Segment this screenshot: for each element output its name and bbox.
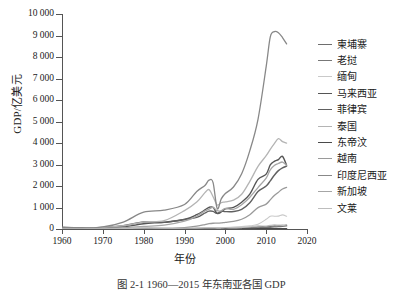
legend-label: 越南 [337, 153, 357, 164]
legend-item[interactable]: 越南 [318, 151, 403, 167]
legend-item[interactable]: 缅甸 [318, 69, 403, 85]
x-tick-label: 1990 [165, 236, 205, 246]
series-lines [62, 14, 307, 229]
y-tick-label: 3 000 [10, 160, 54, 169]
x-tick-mark [144, 229, 145, 234]
x-tick-mark [103, 229, 104, 234]
plot-area [62, 14, 307, 229]
legend-item[interactable]: 印度尼西亚 [318, 167, 403, 183]
legend-label: 泰国 [337, 121, 357, 132]
figure-caption: 图 2-1 1960—2015 年东南亚各国 GDP [0, 276, 403, 294]
x-tick-label: 1960 [42, 236, 82, 246]
legend-label: 印度尼西亚 [337, 170, 387, 181]
legend-swatch-icon [318, 158, 332, 159]
x-tick-mark [185, 229, 186, 234]
series-line [62, 156, 287, 228]
legend-label: 菲律宾 [337, 104, 367, 115]
y-tick-label: 4 000 [10, 138, 54, 147]
legend-item[interactable]: 泰国 [318, 118, 403, 134]
legend-swatch-icon [318, 175, 332, 176]
chart-legend: 柬埔寨老挝缅甸马来西亚菲律宾泰国东帝汶越南印度尼西亚新加坡文莱 [318, 36, 403, 216]
x-axis-title: 年份 [62, 250, 308, 266]
y-tick-label: 9 000 [10, 31, 54, 40]
x-tick-label: 1970 [83, 236, 123, 246]
legend-swatch-icon [318, 93, 332, 94]
legend-swatch-icon [318, 142, 332, 143]
legend-swatch-icon [318, 44, 332, 45]
legend-label: 缅甸 [337, 71, 357, 82]
legend-item[interactable]: 柬埔寨 [318, 36, 403, 52]
legend-label: 新加坡 [337, 186, 367, 197]
legend-swatch-icon [318, 208, 332, 209]
legend-label: 东帝汶 [337, 137, 367, 148]
legend-item[interactable]: 老挝 [318, 52, 403, 68]
chart-figure: GDP/亿美元 01 0002 0003 0004 0005 0006 0007… [0, 0, 403, 295]
legend-swatch-icon [318, 126, 332, 127]
legend-item[interactable]: 新加坡 [318, 184, 403, 200]
y-tick-label: 5 000 [10, 117, 54, 126]
legend-swatch-icon [318, 76, 332, 77]
y-tick-label: 1 000 [10, 203, 54, 212]
legend-swatch-icon [318, 60, 332, 61]
series-line [62, 162, 287, 229]
legend-label: 老挝 [337, 55, 357, 66]
x-tick-mark [225, 229, 226, 234]
x-tick-label: 2010 [246, 236, 286, 246]
x-tick-label: 1980 [124, 236, 164, 246]
y-tick-label: 10 000 [10, 9, 54, 18]
legend-swatch-icon [318, 109, 332, 110]
x-tick-label: 2020 [287, 236, 327, 246]
y-tick-label: 7 000 [10, 74, 54, 83]
y-tick-label: 8 000 [10, 52, 54, 61]
legend-item[interactable]: 马来西亚 [318, 85, 403, 101]
x-tick-mark [307, 229, 308, 234]
legend-label: 柬埔寨 [337, 39, 367, 50]
legend-item[interactable]: 菲律宾 [318, 102, 403, 118]
legend-item[interactable]: 文莱 [318, 200, 403, 216]
legend-item[interactable]: 东帝汶 [318, 134, 403, 150]
x-tick-label: 2000 [205, 236, 245, 246]
x-tick-mark [266, 229, 267, 234]
y-tick-label: 6 000 [10, 95, 54, 104]
series-line [62, 139, 287, 229]
legend-label: 文莱 [337, 203, 357, 214]
y-tick-label: 0 [10, 224, 54, 233]
y-tick-label: 2 000 [10, 181, 54, 190]
x-tick-mark [62, 229, 63, 234]
legend-swatch-icon [318, 191, 332, 192]
legend-label: 马来西亚 [337, 88, 377, 99]
